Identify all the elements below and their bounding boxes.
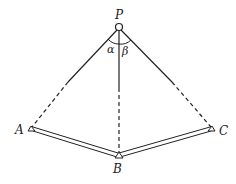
- marker-a-icon: [28, 126, 35, 131]
- bar-ab: [33, 127, 118, 157]
- angle-beta-arc: [119, 40, 131, 44]
- label-b: B: [112, 162, 122, 176]
- pivot-p-icon: [116, 24, 123, 31]
- label-a: A: [14, 123, 24, 137]
- label-c: C: [219, 124, 228, 138]
- label-p: P: [114, 8, 124, 22]
- marker-c-icon: [208, 126, 215, 131]
- label-alpha: α: [107, 43, 115, 56]
- line-pc: [121, 30, 211, 127]
- line-pa: [32, 30, 117, 127]
- geometry-diagram: P α β A B C: [0, 0, 236, 184]
- label-beta: β: [121, 45, 128, 58]
- bar-bc: [119, 127, 211, 157]
